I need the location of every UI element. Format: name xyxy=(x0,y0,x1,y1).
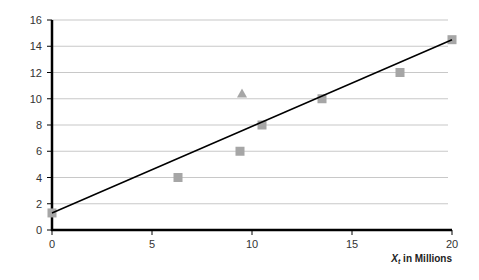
x-tick-label: 10 xyxy=(246,238,258,250)
y-tick-label: 2 xyxy=(36,198,42,210)
x-tick-label: 15 xyxy=(346,238,358,250)
scatter-chart: 024681012141605101520Xt in Millions xyxy=(0,0,479,280)
square-marker xyxy=(174,173,183,182)
y-tick-label: 10 xyxy=(30,93,42,105)
y-tick-label: 4 xyxy=(36,172,42,184)
y-tick-label: 0 xyxy=(36,224,42,236)
triangle-marker xyxy=(237,89,247,98)
regression-line xyxy=(52,40,452,213)
y-tick-label: 16 xyxy=(30,14,42,26)
square-marker xyxy=(236,147,245,156)
y-tick-label: 14 xyxy=(30,40,42,52)
x-tick-label: 20 xyxy=(446,238,458,250)
y-tick-label: 8 xyxy=(36,119,42,131)
x-tick-label: 5 xyxy=(149,238,155,250)
y-tick-label: 6 xyxy=(36,145,42,157)
x-axis-label: Xt in Millions xyxy=(390,253,452,265)
y-tick-label: 12 xyxy=(30,67,42,79)
x-tick-label: 0 xyxy=(49,238,55,250)
square-marker xyxy=(396,68,405,77)
